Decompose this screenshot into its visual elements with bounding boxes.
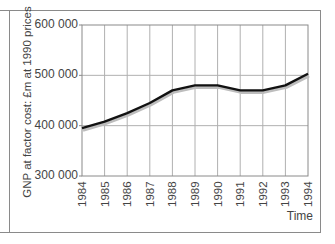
series-shadow bbox=[83, 76, 309, 130]
line-chart bbox=[0, 0, 335, 244]
gridlines bbox=[79, 25, 308, 176]
x-axis-title: Time bbox=[287, 209, 313, 223]
